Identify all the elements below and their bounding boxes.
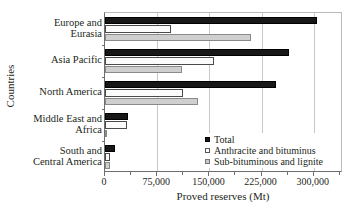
bar xyxy=(105,113,128,120)
x-axis-minor-tick xyxy=(130,172,131,175)
bar xyxy=(105,17,317,24)
legend-item: Anthracite and bituminus xyxy=(205,145,323,156)
legend-swatch-icon xyxy=(205,148,210,153)
y-axis-tick xyxy=(102,45,105,46)
y-axis-category-label: North America xyxy=(16,86,102,98)
legend-swatch-icon xyxy=(205,137,210,142)
bar-group xyxy=(105,45,341,77)
category-label-line: Eurasia xyxy=(16,28,102,40)
x-axis-tick-label: 225,000 xyxy=(244,176,277,187)
bar xyxy=(105,66,182,73)
bar xyxy=(105,49,289,56)
chart-legend: TotalAnthracite and bituminusSub-bitumin… xyxy=(203,133,325,168)
x-axis-minor-tick xyxy=(182,172,183,175)
legend-item: Total xyxy=(205,134,323,145)
y-axis-category-label: Europe andEurasia xyxy=(16,17,102,40)
chart-figure: Countries Europe andEurasiaAsia PacificN… xyxy=(0,0,355,212)
bar xyxy=(105,162,110,169)
y-axis-tick xyxy=(102,109,105,110)
category-label-line: Europe and xyxy=(16,17,102,29)
x-axis-tick-label: 75,000 xyxy=(142,176,170,187)
x-axis-tick-label: 300,000 xyxy=(297,176,330,187)
x-axis-tick-label: 150,000 xyxy=(192,176,225,187)
category-label-line: Africa xyxy=(16,124,102,136)
category-label-line: South and xyxy=(16,145,102,157)
y-axis-category-label: Asia Pacific xyxy=(16,54,102,66)
legend-label: Total xyxy=(214,134,234,145)
bar-group xyxy=(105,13,341,45)
bar xyxy=(105,98,198,105)
x-axis-minor-tick xyxy=(339,172,340,175)
bar xyxy=(105,121,127,128)
bar xyxy=(105,130,107,137)
x-axis-minor-tick xyxy=(234,172,235,175)
legend-item: Sub-bituminous and lignite xyxy=(205,156,323,167)
y-axis-category-label: South andCentral America xyxy=(16,145,102,168)
legend-swatch-icon xyxy=(205,159,210,164)
bar xyxy=(105,25,171,32)
y-axis-category-label: Middle East andAfrica xyxy=(16,113,102,136)
x-axis-minor-tick xyxy=(287,172,288,175)
y-axis-tick xyxy=(102,77,105,78)
bar xyxy=(105,89,183,96)
bar-group xyxy=(105,77,341,109)
bar xyxy=(105,81,276,88)
y-axis-category-labels: Europe andEurasiaAsia PacificNorth Ameri… xyxy=(16,12,102,172)
bar xyxy=(105,34,251,41)
y-axis-tick xyxy=(102,141,105,142)
legend-label: Sub-bituminous and lignite xyxy=(214,156,323,167)
y-axis-title-text: Countries xyxy=(4,65,16,108)
bar xyxy=(105,57,214,64)
x-axis-title: Proved reserves (Mt) xyxy=(104,190,342,202)
legend-label: Anthracite and bituminus xyxy=(214,145,316,156)
category-label-line: Middle East and xyxy=(16,113,102,125)
category-label-line: Asia Pacific xyxy=(16,54,102,66)
category-label-line: Central America xyxy=(16,156,102,168)
x-axis-tick-label: 0 xyxy=(102,176,107,187)
category-label-line: North America xyxy=(16,86,102,98)
bar xyxy=(105,145,115,152)
bar xyxy=(105,153,110,160)
